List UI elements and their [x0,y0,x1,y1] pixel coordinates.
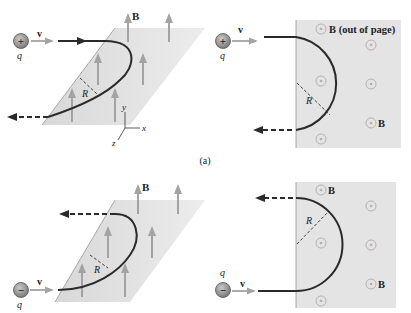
charge-label-q: q [17,50,22,61]
figure-caption: (a) [199,155,210,167]
velocity-label: v [37,276,42,287]
field-plane [55,200,205,302]
panel-top-left: B + q v R y x z [12,10,205,148]
svg-text:−: − [18,284,24,296]
axis-y: y [121,102,126,112]
field-region [296,20,401,148]
charge-label-q: q [220,50,225,61]
field-label-out-of-page: B (out of page) [329,24,396,36]
field-label-B-bottom: B [378,279,385,290]
charge-positive: + [216,34,231,49]
panel-bottom-right: B B R − q v [216,182,397,308]
field-label-B: B [378,118,385,129]
field-label-B-top: B [328,185,335,196]
velocity-label: v [37,28,42,39]
svg-text:−: − [220,284,226,296]
panel-top-right: B (out of page) B + q v R [216,20,402,148]
radius-label: R [93,264,100,275]
charge-negative: − [14,283,29,298]
velocity-label: v [238,24,243,35]
axis-z: z [111,138,116,148]
charge-negative: − [216,283,231,298]
svg-text:+: + [18,35,24,47]
magnetic-deflection-figure: B + q v R y x z [0,0,411,313]
charge-label-q: q [220,267,225,278]
charge-positive: + [14,34,29,49]
charge-label-q: q [17,299,22,310]
radius-label: R [305,215,312,226]
svg-text:+: + [220,35,226,47]
axis-x: x [141,123,146,133]
field-label-B: B [132,10,140,22]
velocity-label: v [240,278,245,289]
field-label-B: B [142,181,150,193]
radius-label: R [81,88,88,99]
radius-label: R [305,95,312,106]
panel-bottom-left: B R − q v [14,181,206,310]
